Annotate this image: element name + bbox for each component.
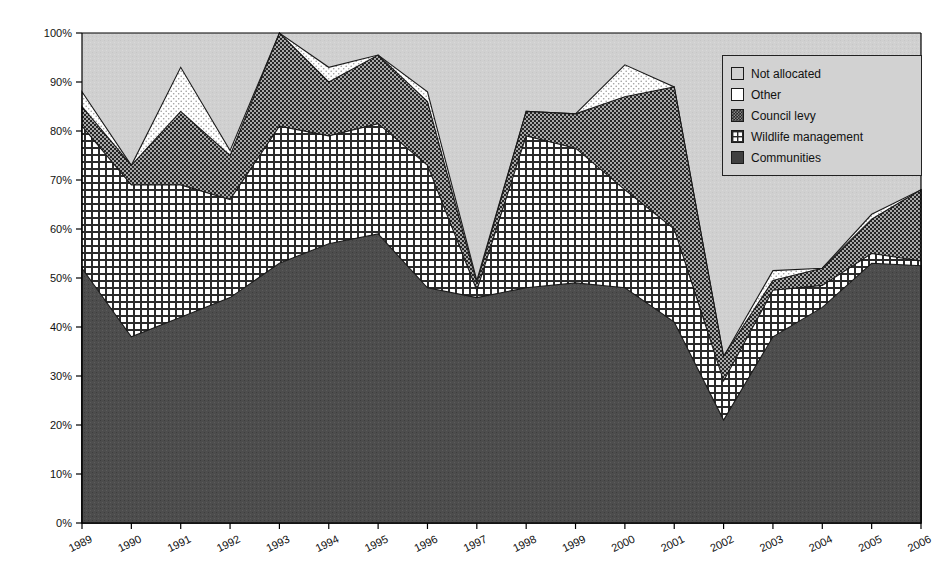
y-axis-label: 10% xyxy=(50,468,72,480)
x-axis-label: 2000 xyxy=(609,533,636,555)
x-axis-label: 2002 xyxy=(708,533,735,555)
x-axis-ticks: 1989199019911992199319941995199619971998… xyxy=(67,523,933,554)
legend-swatch-icon xyxy=(731,88,744,101)
legend-item[interactable]: Communities xyxy=(731,147,911,168)
legend-item[interactable]: Not allocated xyxy=(731,63,911,84)
x-axis-label: 2004 xyxy=(807,533,834,555)
legend-item-label: Communities xyxy=(751,152,821,164)
x-axis-label: 2006 xyxy=(906,533,933,555)
y-axis-label: 50% xyxy=(50,272,72,284)
chart-legend: Not allocatedOtherCouncil levyWildlife m… xyxy=(722,55,922,176)
y-axis-label: 0% xyxy=(56,517,72,529)
x-axis-label: 1990 xyxy=(116,533,143,555)
x-axis-label: 1993 xyxy=(264,533,291,555)
legend-item-label: Not allocated xyxy=(751,68,821,80)
x-axis-label: 1997 xyxy=(461,533,488,555)
x-axis-label: 1994 xyxy=(313,533,340,555)
legend-item-label: Wildlife management xyxy=(751,131,863,143)
y-axis-label: 80% xyxy=(50,125,72,137)
x-axis-label: 1989 xyxy=(67,533,94,555)
x-axis-label: 1998 xyxy=(511,533,538,555)
x-axis-label: 1999 xyxy=(560,533,587,555)
y-axis-label: 60% xyxy=(50,223,72,235)
chart-container: 0%10%20%30%40%50%60%70%80%90%100% 198919… xyxy=(0,0,943,585)
y-axis-label: 40% xyxy=(50,321,72,333)
y-axis-ticks: 0%10%20%30%40%50%60%70%80%90%100% xyxy=(44,27,82,529)
x-axis-label: 1992 xyxy=(215,533,242,555)
legend-swatch-icon xyxy=(731,67,744,80)
legend-item-label: Other xyxy=(751,89,781,101)
x-axis-label: 2003 xyxy=(758,533,785,555)
legend-item-label: Council levy xyxy=(751,110,816,122)
y-axis-label: 70% xyxy=(50,174,72,186)
y-axis-label: 90% xyxy=(50,76,72,88)
legend-item[interactable]: Council levy xyxy=(731,105,911,126)
y-axis-label: 20% xyxy=(50,419,72,431)
x-axis-label: 2001 xyxy=(659,533,686,555)
x-axis-label: 1991 xyxy=(165,533,192,555)
x-axis-label: 1996 xyxy=(412,533,439,555)
legend-item[interactable]: Wildlife management xyxy=(731,126,911,147)
legend-swatch-icon xyxy=(731,109,744,122)
x-axis-label: 1995 xyxy=(363,533,390,555)
x-axis-label: 2005 xyxy=(856,533,883,555)
legend-swatch-icon xyxy=(731,130,744,143)
y-axis-label: 30% xyxy=(50,370,72,382)
legend-swatch-icon xyxy=(731,151,744,164)
y-axis-label: 100% xyxy=(44,27,72,39)
legend-item[interactable]: Other xyxy=(731,84,911,105)
